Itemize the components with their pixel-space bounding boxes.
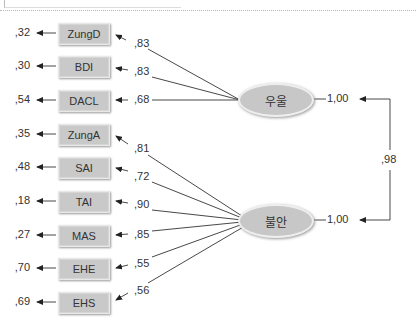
indicator-tai: TAI — [58, 191, 110, 213]
indicator-zunga: ZungA — [58, 124, 110, 146]
error-tai: ,18 — [6, 194, 30, 206]
variance-anxiety: 1,00 — [327, 213, 348, 225]
error-ehs: ,69 — [6, 295, 30, 307]
indicator-dacl: DACL — [58, 90, 110, 112]
loading-mas: ,85 — [134, 228, 149, 240]
error-mas: ,27 — [6, 228, 30, 240]
indicator-ehe: EHE — [58, 258, 110, 280]
loading-ehe: ,55 — [134, 257, 149, 269]
loading-zungd: ,83 — [134, 37, 149, 49]
loading-zunga: ,81 — [134, 142, 149, 154]
variance-depression: 1,00 — [327, 92, 348, 104]
error-sai: ,48 — [6, 160, 30, 172]
loading-tai: ,90 — [134, 198, 149, 210]
error-ehe: ,70 — [6, 261, 30, 273]
indicator-mas: MAS — [58, 225, 110, 247]
loading-bdi: ,83 — [134, 65, 149, 77]
error-dacl: ,54 — [6, 93, 30, 105]
indicator-bdi: BDI — [58, 56, 110, 78]
factor-anxiety: 불안 — [238, 204, 314, 238]
error-bdi: ,30 — [6, 59, 30, 71]
indicator-zungd: ZungD — [58, 23, 110, 45]
error-zunga: ,35 — [6, 127, 30, 139]
indicator-ehs: EHS — [58, 292, 110, 314]
error-zungd: ,32 — [6, 26, 30, 38]
loading-sai: ,72 — [134, 170, 149, 182]
loading-dacl: ,68 — [134, 93, 149, 105]
indicator-sai: SAI — [58, 157, 110, 179]
loading-ehs: ,56 — [134, 284, 149, 296]
factor-correlation: ,98 — [381, 153, 396, 165]
factor-depression: 우울 — [238, 83, 314, 117]
